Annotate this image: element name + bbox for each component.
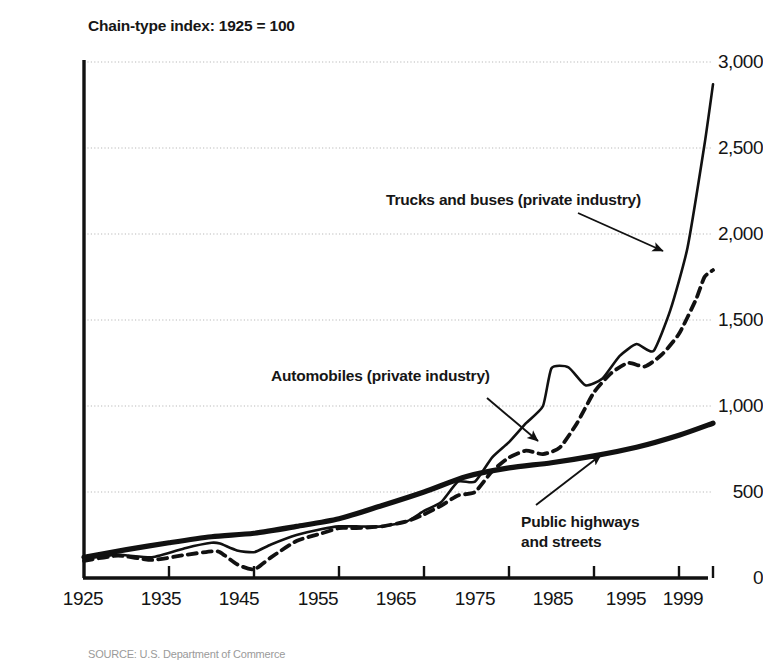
annotation-automobiles: Automobiles (private industry) [271, 366, 490, 386]
annotation-trucks-and-buses: Trucks and buses (private industry) [386, 190, 641, 210]
data-series [84, 84, 713, 569]
source-note: SOURCE: U.S. Department of Commerce [88, 648, 285, 660]
arrow-trucks-and-buses [578, 213, 663, 251]
annotation-public-highways: Public highways and streets [521, 512, 639, 552]
gridlines [84, 62, 713, 492]
series-line [84, 84, 713, 559]
